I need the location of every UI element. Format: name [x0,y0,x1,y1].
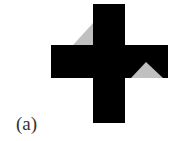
grey-triangle-upper-left [73,23,93,45]
cross-figure: (a) [0,0,183,141]
figure-label: (a) [16,114,37,133]
